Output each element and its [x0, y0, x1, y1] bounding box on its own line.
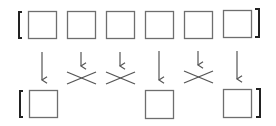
- top-left-bracket: [19, 12, 22, 38]
- bottom-cell-4: [146, 91, 174, 119]
- top-cell-4: [146, 12, 174, 39]
- bottom-row: [30, 90, 252, 119]
- top-cell-6: [224, 11, 252, 38]
- cross-icon: [184, 71, 213, 83]
- top-right-bracket: [255, 9, 259, 37]
- bottom-cell-1: [30, 91, 58, 118]
- top-cell-3: [107, 12, 135, 39]
- bottom-cell-6: [224, 90, 252, 118]
- top-cell-1: [29, 12, 57, 39]
- bottom-right-bracket: [256, 89, 260, 117]
- bottom-left-bracket: [20, 91, 23, 117]
- cross-icon: [106, 72, 135, 84]
- drop-arrows: [81, 51, 198, 66]
- top-cell-2: [68, 12, 96, 39]
- keep-arrows: [42, 51, 237, 80]
- top-row: [29, 11, 252, 39]
- filter-diagram: [0, 0, 276, 126]
- top-cell-5: [185, 12, 213, 39]
- discard-crosses: [67, 71, 213, 84]
- cross-icon: [67, 72, 96, 84]
